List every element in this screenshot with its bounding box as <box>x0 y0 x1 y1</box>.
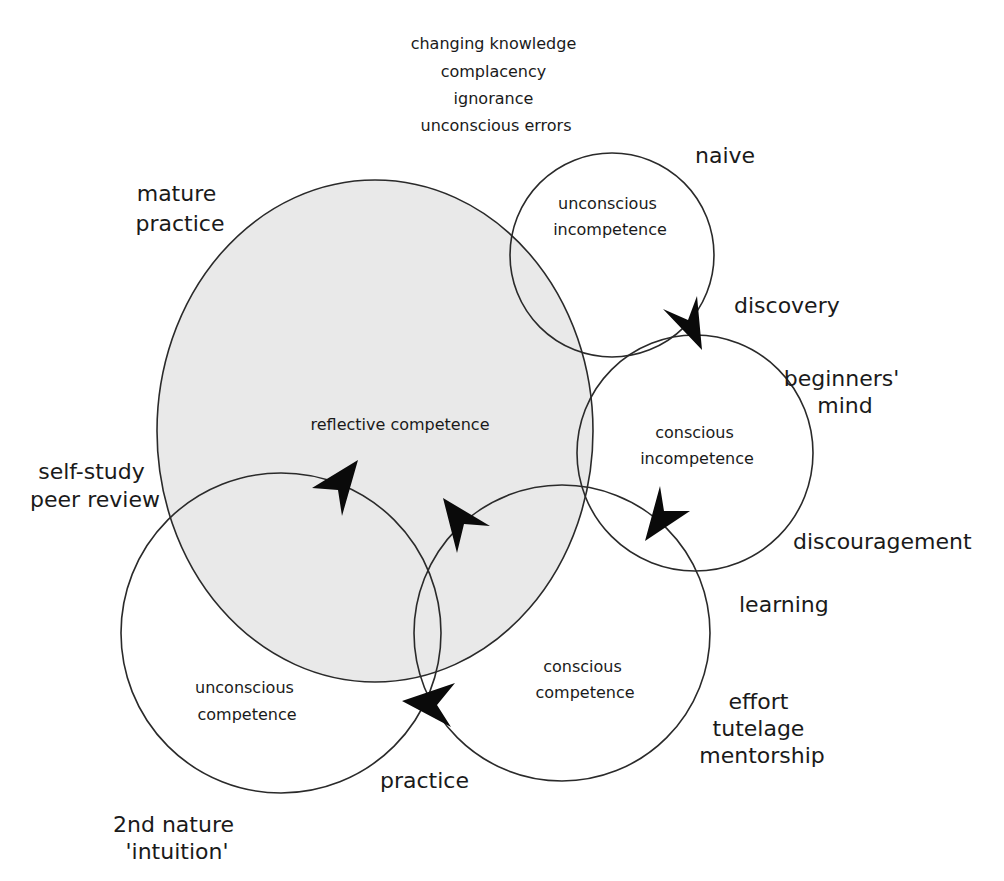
label-mature-practice: mature practice <box>136 181 225 236</box>
label-discouragement: discouragement <box>793 529 972 554</box>
top-annotation: changing knowledge complacency ignorance… <box>411 34 582 135</box>
arrow-discovery-icon <box>663 296 702 350</box>
label-learning: learning <box>739 592 829 617</box>
label-discovery: discovery <box>734 293 840 318</box>
label-practice: practice <box>380 768 469 793</box>
label-2nd-nature-intuition: 2nd nature 'intuition' <box>113 812 241 864</box>
label-effort-tutelage-mentorship: effort tutelage mentorship <box>699 689 825 768</box>
competence-cycle-diagram: changing knowledge complacency ignorance… <box>0 0 1004 881</box>
label-self-study-peer-review: self-study peer review <box>30 459 160 512</box>
stage-unconscious-incompetence: unconscious incompetence <box>553 194 667 239</box>
stage-conscious-incompetence: conscious incompetence <box>640 423 754 468</box>
arrow-learning-icon <box>645 486 690 541</box>
label-beginners-mind: beginners' mind <box>784 366 907 418</box>
arrow-practice-icon <box>402 683 455 727</box>
stage-conscious-competence: conscious competence <box>535 657 634 702</box>
label-naive: naive <box>695 143 755 168</box>
stage-unconscious-competence: unconscious competence <box>195 678 299 724</box>
stage-reflective-competence: reflective competence <box>311 415 490 434</box>
